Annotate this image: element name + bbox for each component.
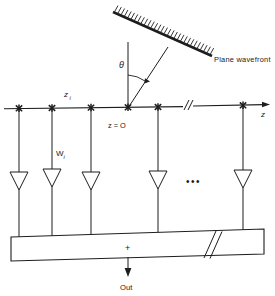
z-axis-break-mark: [184, 100, 193, 110]
incident-ray-line: [128, 47, 168, 108]
theta-label: θ: [119, 60, 124, 70]
channel-2-amplifier: [43, 169, 61, 187]
channel-4-group: [149, 107, 167, 233]
figure-root: Plane wavefront θ: [0, 0, 275, 296]
channel-1-amplifier: [10, 172, 28, 190]
sensor-position-symbol: z: [63, 90, 68, 99]
output-label: Out: [120, 283, 133, 292]
channel-5-group: [234, 106, 252, 232]
channel-3-group: [82, 108, 100, 235]
summing-sign-label: +: [125, 243, 130, 253]
channel-5-amplifier: [234, 170, 252, 188]
weight-label: W i: [56, 149, 66, 160]
output-group: [125, 257, 132, 277]
channel-1-group: [10, 109, 28, 237]
sensor-position-label: z i: [63, 90, 72, 101]
z-axis-label: z: [260, 110, 265, 119]
channel-2-group: [43, 109, 61, 237]
summing-bus-group: +: [11, 229, 264, 261]
channel-3-amplifier: [82, 172, 100, 190]
wavefront-hatching: [115, 6, 214, 55]
summing-bus-body: [11, 229, 264, 261]
incidence-angle-group: [128, 42, 168, 108]
weight-subscript: i: [64, 154, 66, 160]
plane-wavefront-label: Plane wavefront: [214, 55, 271, 64]
z-axis-right-segment: [193, 105, 264, 106]
channel-ellipsis: •••: [186, 176, 201, 187]
beamformer-diagram: Plane wavefront θ: [0, 0, 275, 296]
origin-label: z = O: [108, 121, 126, 130]
z-axis-arrowhead: [262, 102, 270, 107]
z-axis-group: [4, 100, 270, 112]
sensor-position-subscript: i: [70, 95, 72, 101]
output-arrowhead: [125, 268, 132, 277]
angle-arc: [128, 75, 145, 81]
channel-4-amplifier: [149, 171, 167, 189]
